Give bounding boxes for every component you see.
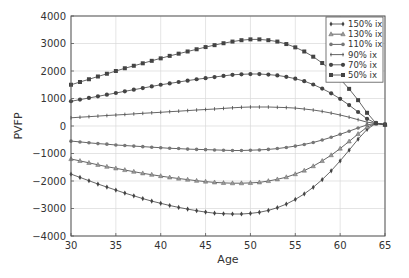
circle-marker-icon xyxy=(177,80,181,84)
hexagon-marker-icon xyxy=(267,148,271,152)
hexagon-marker-icon xyxy=(213,148,217,152)
x-tick-label: 45 xyxy=(199,240,212,251)
hexagon-marker-icon xyxy=(114,143,118,147)
circle-marker-icon xyxy=(275,73,279,77)
circle-marker-icon xyxy=(293,77,297,81)
circle-marker-icon xyxy=(159,83,163,87)
legend-label: 50% ix xyxy=(348,70,377,80)
hexagon-marker-icon xyxy=(204,148,208,152)
circle-marker-icon xyxy=(329,63,333,67)
triangle-marker-icon xyxy=(320,159,324,163)
diamond-marker-icon xyxy=(132,193,135,198)
circle-marker-icon xyxy=(230,73,234,77)
circle-marker-icon xyxy=(212,75,216,79)
hexagon-marker-icon xyxy=(338,132,342,136)
diamond-marker-icon xyxy=(168,203,171,208)
square-marker-icon xyxy=(186,49,190,53)
hexagon-marker-icon xyxy=(123,144,127,148)
diamond-marker-icon xyxy=(177,205,180,210)
square-marker-icon xyxy=(96,75,100,79)
square-marker-icon xyxy=(302,49,306,53)
square-marker-icon xyxy=(374,121,378,125)
square-marker-icon xyxy=(159,56,163,60)
hexagon-marker-icon xyxy=(222,148,226,152)
circle-marker-icon xyxy=(329,91,333,95)
series-130ix xyxy=(69,121,387,185)
square-marker-icon xyxy=(284,42,288,46)
y-tick-label: −4000 xyxy=(32,231,66,242)
circle-marker-icon xyxy=(186,79,190,83)
hexagon-marker-icon xyxy=(302,143,306,147)
triangle-marker-icon xyxy=(338,146,342,150)
y-tick-label: 1000 xyxy=(41,93,66,104)
circle-marker-icon xyxy=(365,117,369,121)
x-tick-label: 65 xyxy=(379,240,392,251)
circle-marker-icon xyxy=(168,81,172,85)
hexagon-marker-icon xyxy=(78,140,82,144)
square-marker-icon xyxy=(105,72,109,76)
hexagon-marker-icon xyxy=(341,43,345,47)
legend-label: 90% ix xyxy=(348,50,377,60)
legend-label: 130% ix xyxy=(348,29,382,39)
circle-marker-icon xyxy=(203,76,207,80)
diamond-marker-icon xyxy=(213,211,216,216)
circle-marker-icon xyxy=(338,97,342,101)
legend: 150% ix130% ix110% ix90% ix70% ix50% ix xyxy=(326,17,383,82)
square-marker-icon xyxy=(320,61,324,65)
diamond-marker-icon xyxy=(312,185,315,190)
x-tick-label: 55 xyxy=(289,240,302,251)
y-axis-label: PVFP xyxy=(12,112,25,139)
square-marker-icon xyxy=(311,55,315,59)
y-tick-label: 3000 xyxy=(41,38,66,49)
diamond-marker-icon xyxy=(240,211,243,216)
hexagon-marker-icon xyxy=(96,142,100,146)
hexagon-marker-icon xyxy=(186,147,190,151)
hexagon-marker-icon xyxy=(168,146,172,150)
hexagon-marker-icon xyxy=(159,146,163,150)
circle-marker-icon xyxy=(114,91,118,95)
legend-label: 110% ix xyxy=(348,39,382,49)
circle-marker-icon xyxy=(311,82,315,86)
diamond-marker-icon xyxy=(276,205,279,210)
triangle-marker-icon xyxy=(356,132,360,136)
square-marker-icon xyxy=(239,38,243,42)
hexagon-marker-icon xyxy=(311,141,315,145)
diamond-marker-icon xyxy=(159,201,162,206)
diamond-marker-icon xyxy=(321,177,324,182)
square-marker-icon xyxy=(365,111,369,115)
circle-marker-icon xyxy=(96,94,100,98)
diamond-marker-icon xyxy=(78,175,81,180)
x-tick-label: 35 xyxy=(109,240,122,251)
diamond-marker-icon xyxy=(258,210,261,215)
circle-marker-icon xyxy=(284,75,288,79)
square-marker-icon xyxy=(123,66,127,70)
diamond-marker-icon xyxy=(105,184,108,189)
circle-marker-icon xyxy=(195,77,199,81)
circle-marker-icon xyxy=(320,87,324,91)
square-marker-icon xyxy=(266,38,270,42)
square-marker-icon xyxy=(356,98,360,102)
hexagon-marker-icon xyxy=(276,147,280,151)
square-marker-icon xyxy=(347,87,351,91)
square-marker-icon xyxy=(150,59,154,63)
square-marker-icon xyxy=(341,73,345,77)
hexagon-marker-icon xyxy=(150,145,154,149)
circle-marker-icon xyxy=(87,96,91,100)
hexagon-marker-icon xyxy=(356,126,360,130)
square-marker-icon xyxy=(213,43,217,47)
hexagon-marker-icon xyxy=(87,141,91,145)
square-marker-icon xyxy=(78,80,82,84)
diamond-marker-icon xyxy=(285,202,288,207)
square-marker-icon xyxy=(248,37,252,41)
hexagon-marker-icon xyxy=(195,148,199,152)
square-marker-icon xyxy=(275,40,279,44)
diamond-marker-icon xyxy=(204,209,207,214)
hexagon-marker-icon xyxy=(347,129,351,133)
diamond-marker-icon xyxy=(195,208,198,213)
hexagon-marker-icon xyxy=(329,135,333,139)
square-marker-icon xyxy=(132,64,136,68)
legend-label: 150% ix xyxy=(348,19,382,29)
y-axis-ticks: −4000−3000−2000−100001000200030004000 xyxy=(32,11,74,242)
square-marker-icon xyxy=(222,41,226,45)
square-marker-icon xyxy=(204,45,208,49)
